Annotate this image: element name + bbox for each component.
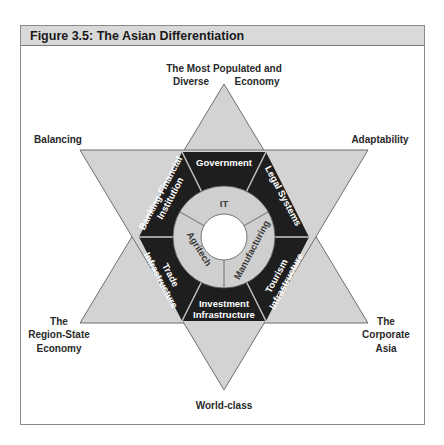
label-top-line2-right: Economy [234,76,279,87]
star-diagram: Government Legal Systems Tourism Infrast… [0,0,444,445]
label-region-state-line1: The [50,316,68,327]
label-balancing: Balancing [34,134,82,145]
segment-investment-line1: Investment [199,298,250,309]
label-world-class: World-class [196,400,253,411]
label-region-state-line3: Economy [36,343,81,354]
ring-label-it: IT [220,198,229,209]
segment-government: Government [196,157,253,168]
label-corporate-asia-line1: The [377,316,395,327]
label-top-line2-left: Diverse [173,76,210,87]
label-region-state-line2: Region-State [28,329,90,340]
label-corporate-asia-line2: Corporate [362,329,410,340]
label-top-line1: The Most Populated and [166,63,282,74]
label-adaptability: Adaptability [351,134,409,145]
segment-investment-line2: Infrastructure [193,309,255,320]
label-corporate-asia-line3: Asia [375,343,397,354]
